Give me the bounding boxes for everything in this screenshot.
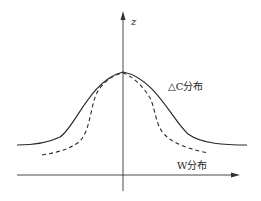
distribution-diagram: z △C分布 W分布 [0,0,261,201]
z-axis-label: z [130,16,137,27]
solid-curve [17,72,247,145]
vertical-axis [121,11,126,191]
horizontal-axis [17,173,240,178]
w-distribution-label: W分布 [177,160,207,171]
delta-c-distribution-label: △C分布 [168,81,203,92]
x-axis-arrow-icon [231,173,240,178]
z-axis-arrow-icon [121,11,126,20]
